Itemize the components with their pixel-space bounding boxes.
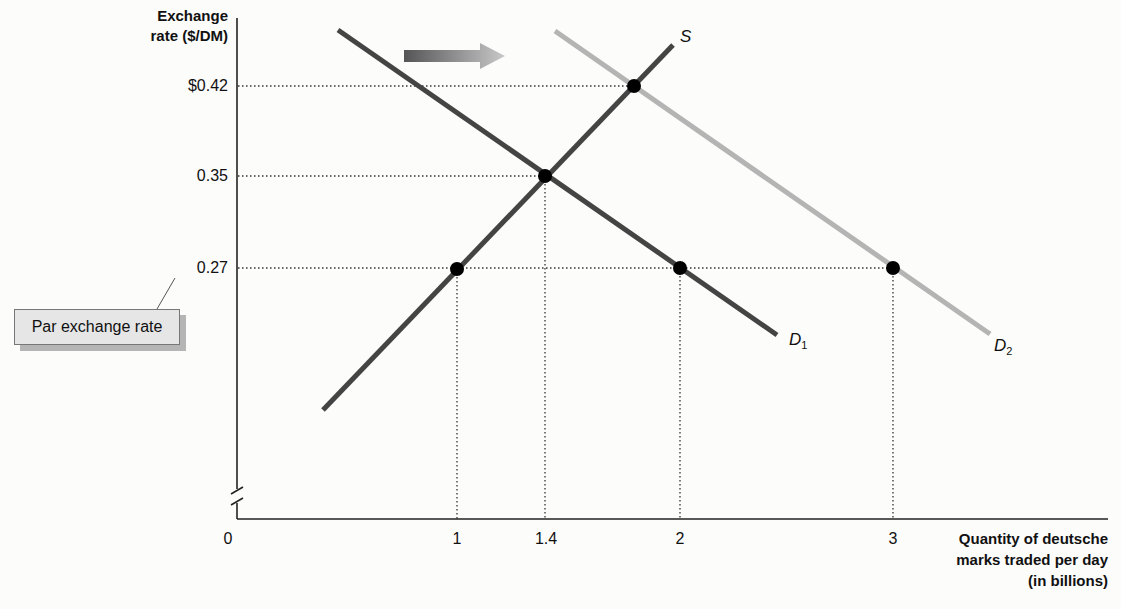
x-axis-title-line2: marks traded per day	[900, 549, 1108, 570]
d1-label-subscript: 1	[801, 339, 807, 351]
y-axis-title-line1: Exchange	[100, 6, 228, 26]
y-axis-title-line2: rate ($/DM)	[100, 26, 228, 46]
guide-lines	[238, 86, 893, 519]
d2-label: D2	[994, 336, 1012, 357]
d1-label-letter: D	[789, 330, 801, 349]
point-s-par	[450, 262, 464, 276]
shift-arrow-icon	[404, 43, 505, 69]
y-tick-027: 0.27	[148, 259, 228, 277]
x-tick-0: 0	[208, 530, 248, 548]
point-equilibrium-original	[538, 169, 552, 183]
demand-curve-d2	[555, 31, 990, 334]
x-axis-title-line3: (in billions)	[900, 570, 1108, 591]
point-equilibrium-new	[627, 79, 641, 93]
callout-leader-line	[157, 278, 175, 309]
y-tick-035: 0.35	[148, 167, 228, 185]
supply-label: S	[680, 27, 691, 47]
x-tick-1: 1	[437, 530, 477, 548]
d2-label-subscript: 2	[1006, 345, 1012, 357]
data-points	[450, 79, 900, 276]
x-axis-title-line1: Quantity of deutsche	[900, 528, 1108, 549]
y-axis-title: Exchange rate ($/DM)	[100, 6, 228, 46]
point-d2-par	[886, 261, 900, 275]
x-tick-14: 1.4	[526, 530, 566, 548]
d1-label: D1	[789, 330, 807, 351]
point-d1-par	[673, 261, 687, 275]
x-tick-2: 2	[660, 530, 700, 548]
x-axis-title: Quantity of deutsche marks traded per da…	[900, 528, 1108, 591]
y-tick-042: $0.42	[148, 77, 228, 95]
d2-label-letter: D	[994, 336, 1006, 355]
par-exchange-rate-callout: Par exchange rate	[14, 309, 180, 345]
demand-curve-d1	[338, 30, 777, 335]
